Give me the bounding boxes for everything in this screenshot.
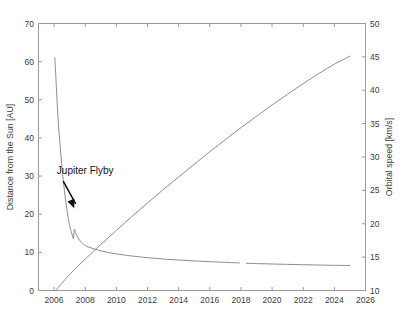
y-tick-label: 50 xyxy=(25,95,35,105)
y2-tick-label: 50 xyxy=(370,19,380,29)
x-tick-label: 2012 xyxy=(138,295,157,305)
x-tick-label: 2014 xyxy=(169,295,188,305)
annotation-arrow-head xyxy=(69,200,74,207)
x-tick-label: 2016 xyxy=(200,295,219,305)
chart-figure: 2006200820102012201420162018202020222024… xyxy=(0,0,402,325)
annotation-label-jupiter-flyby: Jupiter Flyby xyxy=(57,165,114,176)
y-tick-label: 20 xyxy=(25,209,35,219)
sun-distance-curve xyxy=(55,58,240,263)
x-tick-label: 2006 xyxy=(45,295,64,305)
y2-tick-label: 20 xyxy=(370,219,380,229)
y2-tick-label: 25 xyxy=(370,185,380,195)
y2-tick-label: 35 xyxy=(370,119,380,129)
x-tick-label: 2010 xyxy=(107,295,126,305)
x-tick-label: 2008 xyxy=(76,295,95,305)
x-tick-label: 2018 xyxy=(231,295,250,305)
x-tick-label: 2020 xyxy=(263,295,282,305)
sun-distance-curve-segment-2 xyxy=(246,263,350,265)
y-tick-label: 60 xyxy=(25,57,35,67)
y-tick-label: 30 xyxy=(25,171,35,181)
dual-axis-line-chart: 2006200820102012201420162018202020222024… xyxy=(0,0,402,325)
y2-tick-label: 30 xyxy=(370,152,380,162)
y-tick-label: 0 xyxy=(29,286,34,296)
y2-tick-label: 15 xyxy=(370,252,380,262)
y-tick-label: 10 xyxy=(25,247,35,257)
y2-tick-label: 10 xyxy=(370,286,380,296)
x-tick-label: 2026 xyxy=(356,295,375,305)
y-tick-label: 70 xyxy=(25,19,35,29)
x-tick-label: 2024 xyxy=(325,295,344,305)
y-axis-title: Distance from the Sun [AU] xyxy=(5,104,15,211)
y2-axis-title: Orbital speed [km/s] xyxy=(384,118,394,196)
y2-tick-label: 45 xyxy=(370,52,380,62)
y-tick-label: 40 xyxy=(25,133,35,143)
x-tick-label: 2022 xyxy=(294,295,313,305)
y2-tick-label: 40 xyxy=(370,85,380,95)
